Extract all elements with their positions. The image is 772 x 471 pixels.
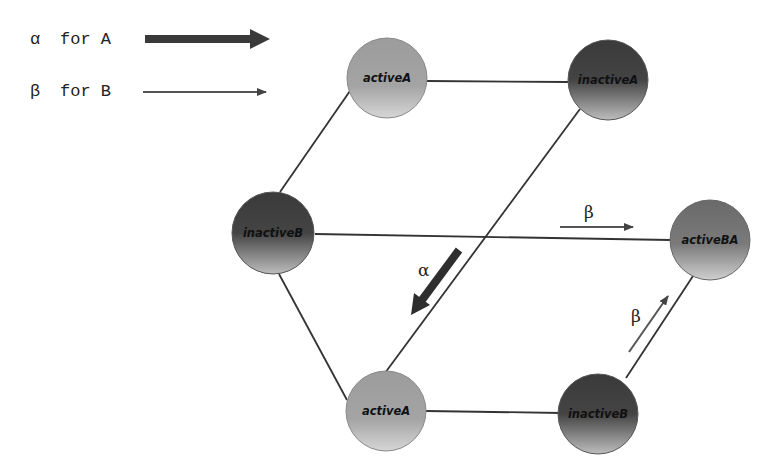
edge-activeA-inactiveB	[280, 88, 352, 192]
node-inactiveB-bottom: inactiveB	[558, 374, 638, 454]
svg-text:activeA: activeA	[362, 404, 410, 418]
svg-text:inactiveB: inactiveB	[243, 226, 303, 240]
node-activeBA: activeBA	[670, 200, 750, 280]
edge-inactiveB-activeBA	[315, 234, 670, 240]
edge-inactiveA-activeA	[385, 109, 580, 373]
edge-inactiveB-activeBA	[626, 276, 693, 378]
edge-activeA-inactiveB-bottom	[426, 411, 562, 413]
beta-label-horizontal: β	[584, 202, 594, 222]
svg-text:activeBA: activeBA	[682, 233, 739, 247]
edge-inactiveB-activeA	[279, 274, 347, 400]
edge-activeA-inactiveA	[427, 81, 568, 82]
node-activeA-top: activeA	[347, 38, 427, 118]
svg-text:activeA: activeA	[363, 71, 411, 85]
alpha-label-diagonal: α	[418, 260, 430, 280]
node-activeA-bottom: activeA	[346, 371, 426, 451]
state-diagram: β α β activeA inactiveA inactiveB active…	[0, 0, 772, 471]
legend-thick-arrow-icon	[145, 29, 270, 49]
node-inactiveA: inactiveA	[568, 40, 648, 120]
svg-text:inactiveA: inactiveA	[578, 73, 638, 87]
node-inactiveB-left: inactiveB	[232, 192, 314, 274]
beta-label-diagonal: β	[631, 306, 641, 326]
svg-text:inactiveB: inactiveB	[568, 407, 628, 421]
